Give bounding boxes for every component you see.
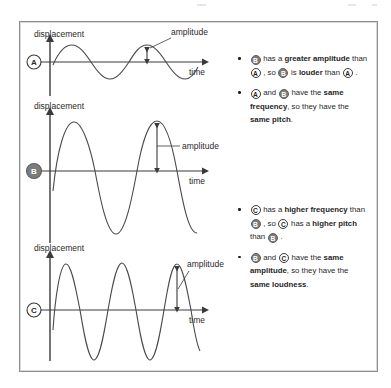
wave-badge-a: A — [251, 89, 261, 99]
emphasis-text: same pitch — [250, 115, 291, 124]
graph-b-y-label: displacement — [34, 101, 85, 111]
body-text: has a — [261, 54, 284, 63]
emphasis-text: higher pitch — [312, 219, 357, 228]
graph-a-amplitude-label: amplitude — [171, 27, 208, 37]
wave-badge-b: B — [251, 219, 261, 229]
notes-group-two: C has a higher frequency than B , so C h… — [238, 203, 370, 292]
wave-badge-c: C — [251, 205, 261, 215]
bullet-icon — [238, 57, 241, 60]
scan-artifact — [348, 4, 356, 6]
wave-badge-a: A — [251, 68, 261, 78]
graph-b-badge: B — [27, 164, 42, 179]
emphasis-text: higher frequency — [284, 205, 347, 214]
scan-artifact — [197, 4, 206, 6]
wave-badge-b: B — [251, 55, 261, 65]
wave-badge-c: C — [279, 253, 289, 263]
body-text: . — [278, 232, 282, 241]
notes-column: B has a greater amplitude than A , so B … — [238, 52, 370, 308]
graph-c-waveform — [53, 263, 200, 360]
bullet-icon — [238, 208, 241, 211]
wave-badge-b: B — [279, 89, 289, 99]
bullet-icon — [238, 256, 241, 259]
graph-b: displacement time amplitude B — [27, 101, 220, 243]
body-text: is — [289, 68, 299, 77]
figure-root: displacement time amplitude A displaceme… — [0, 0, 391, 388]
wave-badge-c: C — [278, 219, 288, 229]
graph-a: displacement time amplitude A — [27, 27, 208, 96]
body-text: than — [250, 232, 267, 241]
graph-c-y-label: displacement — [34, 243, 85, 253]
body-text: , so they have the — [287, 102, 349, 111]
body-text: . — [353, 68, 357, 77]
body-text: has a — [261, 205, 284, 214]
wave-badge-b: B — [268, 233, 278, 243]
emphasis-text: louder — [299, 68, 323, 77]
wave-badge-b: B — [251, 253, 261, 263]
bullet-icon — [238, 91, 241, 94]
body-text: have the — [289, 253, 323, 262]
graph-c-x-label: time — [189, 315, 205, 325]
wave-badge-b: B — [278, 68, 288, 78]
wave-badge-a: A — [343, 68, 353, 78]
graph-a-badge: A — [27, 55, 41, 69]
body-text: than — [348, 205, 365, 214]
body-text: than — [323, 68, 343, 77]
body-text: than — [350, 54, 367, 63]
list-item: C has a higher frequency than B , so C h… — [238, 203, 370, 244]
notes-group-one: B has a greater amplitude than A , so B … — [238, 52, 370, 127]
body-text: and — [261, 88, 278, 97]
body-text: . — [291, 115, 293, 124]
emphasis-text: greater amplitude — [284, 54, 349, 63]
scan-artifact — [372, 4, 377, 6]
body-text: . — [306, 280, 308, 289]
list-item: B has a greater amplitude than A , so B … — [238, 52, 370, 79]
list-item: B and C have the same amplitude, so they… — [238, 251, 370, 292]
graph-a-badge-letter: A — [31, 58, 37, 67]
graph-c-amplitude-label: amplitude — [187, 259, 224, 269]
graph-a-amplitude-leader — [150, 38, 171, 48]
graph-b-waveform — [53, 121, 197, 234]
body-text: , so they have the — [287, 266, 349, 275]
graph-b-x-label: time — [189, 176, 205, 186]
body-text: has a — [289, 219, 312, 228]
graph-c: displacement time amplitude C — [27, 243, 224, 361]
graph-a-y-label: displacement — [34, 29, 85, 39]
graph-b-amplitude-label: amplitude — [182, 141, 219, 151]
body-text: , so — [261, 68, 278, 77]
graph-b-badge-letter: B — [31, 167, 37, 176]
body-text: , so — [261, 219, 278, 228]
emphasis-text: same loudness — [250, 280, 306, 289]
graph-c-badge: C — [27, 303, 41, 317]
body-text: and — [261, 253, 278, 262]
graph-c-badge-letter: C — [31, 306, 37, 315]
body-text: have the — [289, 88, 323, 97]
list-item: A and B have the same frequency, so they… — [238, 86, 370, 127]
